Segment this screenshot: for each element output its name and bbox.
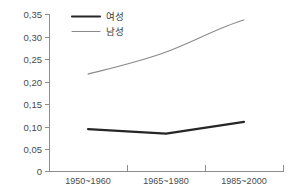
x-axis-tick-labels: 1950~1960 1965~1980 1985~2000 bbox=[65, 176, 266, 186]
line-chart: 0,35 0,30 0,25 0,20 0,15 0,10 0,05 0 195… bbox=[0, 0, 289, 195]
y-tick-label: 0,10 bbox=[24, 122, 43, 133]
y-tick-label: 0,15 bbox=[24, 99, 43, 110]
y-tick-label: 0 bbox=[37, 166, 42, 177]
x-tick-label: 1985~2000 bbox=[221, 176, 266, 186]
chart-background bbox=[0, 0, 289, 195]
y-tick-label: 0,25 bbox=[24, 54, 43, 65]
y-tick-label: 0,20 bbox=[24, 77, 43, 88]
legend-label-male: 남성 bbox=[106, 26, 124, 37]
y-tick-label: 0,30 bbox=[24, 32, 43, 43]
legend-label-female: 여성 bbox=[106, 11, 124, 22]
y-tick-label: 0,35 bbox=[24, 9, 43, 20]
x-tick-label: 1965~1980 bbox=[143, 176, 188, 186]
y-tick-label: 0,05 bbox=[24, 144, 43, 155]
x-tick-label: 1950~1960 bbox=[65, 176, 110, 186]
chart-canvas: 0,35 0,30 0,25 0,20 0,15 0,10 0,05 0 195… bbox=[0, 0, 289, 195]
